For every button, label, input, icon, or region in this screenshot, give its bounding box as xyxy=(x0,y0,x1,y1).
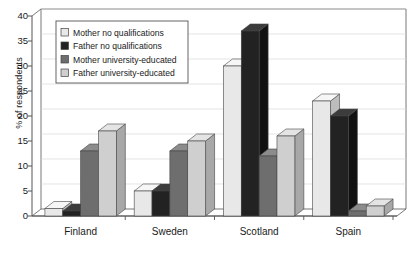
legend-label: Father university-educated xyxy=(73,68,175,78)
legend-label: Mother no qualifications xyxy=(73,28,164,38)
x-tick-label: Spain xyxy=(304,226,393,237)
bar-group xyxy=(188,134,215,216)
y-axis-depth-edge xyxy=(32,9,41,16)
bar-front-face[interactable] xyxy=(348,211,366,216)
bar-side-face xyxy=(348,109,357,216)
bar-front-face[interactable] xyxy=(98,131,116,216)
bar-front-face[interactable] xyxy=(63,211,81,216)
legend-swatch xyxy=(61,56,69,64)
bar-side-face xyxy=(116,124,125,216)
bar-group xyxy=(331,109,358,216)
legend-label: Mother university-educated xyxy=(73,55,177,65)
x-tick-label: Scotland xyxy=(215,226,304,237)
plot-canvas: Mother no qualificationsFather no qualif… xyxy=(0,0,418,258)
bar-front-face[interactable] xyxy=(188,141,206,216)
legend-swatch xyxy=(61,29,69,37)
bar-front-face[interactable] xyxy=(331,116,349,216)
legend-swatch xyxy=(61,69,69,77)
bar-front-face[interactable] xyxy=(223,66,241,216)
bar-chart-figure: % of respondents 0510152025303540 Mother… xyxy=(0,0,418,258)
legend-label: Father no qualifications xyxy=(73,41,162,51)
bar-front-face[interactable] xyxy=(134,191,152,216)
legend-swatch xyxy=(61,42,69,50)
bar-side-face xyxy=(206,134,215,216)
bar-side-face xyxy=(295,129,304,216)
bar-front-face[interactable] xyxy=(277,136,295,216)
bar-group xyxy=(98,124,125,216)
x-tick-label: Sweden xyxy=(125,226,214,237)
bar-front-face[interactable] xyxy=(366,206,384,216)
bar-group xyxy=(277,129,304,216)
bar-front-face[interactable] xyxy=(241,31,259,216)
bar-front-face[interactable] xyxy=(45,209,63,217)
bar-front-face[interactable] xyxy=(152,191,170,216)
x-tick-label: Finland xyxy=(36,226,125,237)
bar-front-face[interactable] xyxy=(81,151,99,216)
bar-front-face[interactable] xyxy=(313,101,331,216)
bar-front-face[interactable] xyxy=(170,151,188,216)
bar-front-face[interactable] xyxy=(259,156,277,216)
